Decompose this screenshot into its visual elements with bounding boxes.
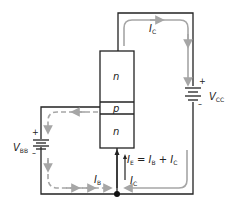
vcc-label: VCC — [209, 92, 224, 103]
emitter-region-label: n — [113, 127, 119, 137]
junction-node — [114, 191, 120, 197]
vbb-minus-sign: – — [32, 150, 36, 158]
ic-top-label: IC — [149, 24, 156, 35]
ie-equation-label: IE = IB + IC — [127, 155, 177, 166]
vbb-label: VBB — [13, 143, 28, 154]
circuit-diagram: n p n + – VCC + – VBB IC IB IC IE = IB +… — [0, 0, 237, 211]
vcc-battery — [185, 88, 201, 100]
base-region-label: p — [113, 104, 119, 114]
vcc-plus-sign: + — [199, 78, 206, 86]
vbb-plus-sign: + — [32, 129, 39, 137]
ib-label: IB — [94, 175, 101, 186]
vcc-minus-sign: – — [198, 101, 202, 109]
ic-bottom-label: IC — [130, 176, 137, 187]
collector-region-label: n — [113, 72, 119, 82]
